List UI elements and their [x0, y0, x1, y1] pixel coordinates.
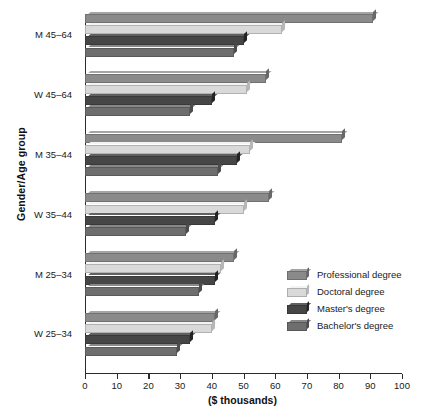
bar-side-3d — [199, 282, 202, 293]
legend-swatch — [287, 322, 307, 331]
bar — [85, 25, 282, 34]
bar — [85, 156, 237, 165]
bar-face — [85, 14, 373, 23]
legend-swatch-face — [287, 288, 307, 297]
bar — [85, 96, 212, 105]
bar — [85, 145, 250, 154]
x-axis-tick-label: 10 — [104, 380, 130, 391]
bar-face — [85, 216, 215, 225]
x-axis-tick-label: 50 — [231, 380, 257, 391]
bar-side-3d — [221, 260, 224, 271]
x-axis-tick — [402, 374, 403, 379]
y-axis-category-label: W 35–44 — [0, 209, 78, 220]
x-axis-tick — [307, 374, 308, 379]
x-axis-tick — [148, 374, 149, 379]
legend-swatch-side-3d — [307, 284, 309, 295]
bar — [85, 216, 215, 225]
bar — [85, 313, 215, 322]
bar-face — [85, 48, 234, 57]
legend-swatch — [287, 305, 307, 314]
x-axis-tick — [180, 374, 181, 379]
bar-side-3d — [269, 189, 272, 200]
x-axis-tick-label: 30 — [167, 380, 193, 391]
bar — [85, 48, 234, 57]
x-axis-tick-label: 100 — [389, 380, 415, 391]
bar-face — [85, 25, 282, 34]
bar — [85, 227, 186, 236]
x-axis-tick-label: 40 — [199, 380, 225, 391]
legend-swatch-face — [287, 322, 307, 331]
bar-side-3d — [215, 211, 218, 222]
y-axis-category-label: M 45–64 — [0, 29, 78, 40]
legend-label: Bachelor's degree — [317, 320, 393, 331]
x-axis-tick — [370, 374, 371, 379]
bar-face — [85, 74, 266, 83]
x-axis-tick — [275, 374, 276, 379]
bar-face — [85, 253, 234, 262]
x-axis-tick-label: 80 — [326, 380, 352, 391]
bar-face — [85, 324, 212, 333]
legend-swatch-face — [287, 305, 307, 314]
x-axis-tick — [339, 374, 340, 379]
bar-side-3d — [244, 32, 247, 43]
legend-swatch-side-3d — [307, 267, 309, 278]
legend-swatch — [287, 288, 307, 297]
bar — [85, 14, 373, 23]
bar-face — [85, 227, 186, 236]
bar-side-3d — [266, 69, 269, 80]
bar-face — [85, 107, 190, 116]
legend-label: Doctoral degree — [317, 286, 385, 297]
bar-chart: Gender/Age group ($ thousands) 010203040… — [0, 0, 425, 415]
bar-side-3d — [190, 103, 193, 114]
legend-item: Bachelor's degree — [287, 319, 419, 335]
bar — [85, 324, 212, 333]
bar-side-3d — [234, 43, 237, 54]
bar-side-3d — [342, 129, 345, 140]
legend-swatch-face — [287, 271, 307, 280]
bar-side-3d — [218, 162, 221, 173]
legend-item: Professional degree — [287, 268, 419, 284]
bar-side-3d — [373, 9, 376, 20]
bar-face — [85, 156, 237, 165]
bar-face — [85, 85, 247, 94]
bar-side-3d — [237, 151, 240, 162]
y-axis-category-label: M 25–34 — [0, 269, 78, 280]
y-axis-category-label: W 25–34 — [0, 328, 78, 339]
legend-label: Master's degree — [317, 303, 385, 314]
bar-side-3d — [234, 248, 237, 259]
bar-side-3d — [215, 308, 218, 319]
x-axis-tick — [117, 374, 118, 379]
bar-side-3d — [244, 200, 247, 211]
bar-face — [85, 96, 212, 105]
bar-side-3d — [177, 342, 180, 353]
bar-side-3d — [215, 271, 218, 282]
bar — [85, 253, 234, 262]
legend-item: Master's degree — [287, 302, 419, 318]
x-axis-tick — [244, 374, 245, 379]
x-axis-tick — [212, 374, 213, 379]
bar-face — [85, 313, 215, 322]
bar-side-3d — [190, 331, 193, 342]
x-axis-tick-label: 70 — [294, 380, 320, 391]
x-axis-title: ($ thousands) — [85, 394, 400, 406]
legend-swatch — [287, 271, 307, 280]
bar-side-3d — [247, 80, 250, 91]
x-axis-tick-label: 0 — [72, 380, 98, 391]
x-axis-tick — [85, 374, 86, 379]
x-axis-tick-label: 60 — [262, 380, 288, 391]
bar-side-3d — [212, 91, 215, 102]
y-axis-category-label: M 35–44 — [0, 149, 78, 160]
legend-item: Doctoral degree — [287, 285, 419, 301]
legend-label: Professional degree — [317, 269, 402, 280]
bar-face — [85, 287, 199, 296]
x-axis-tick-label: 90 — [357, 380, 383, 391]
bar — [85, 347, 177, 356]
bar-face — [85, 145, 250, 154]
bar-face — [85, 347, 177, 356]
bar-face — [85, 167, 218, 176]
bar — [85, 167, 218, 176]
bar-side-3d — [212, 319, 215, 330]
bar — [85, 107, 190, 116]
legend-swatch-side-3d — [307, 301, 309, 312]
chart-legend: Professional degreeDoctoral degreeMaster… — [287, 268, 419, 336]
